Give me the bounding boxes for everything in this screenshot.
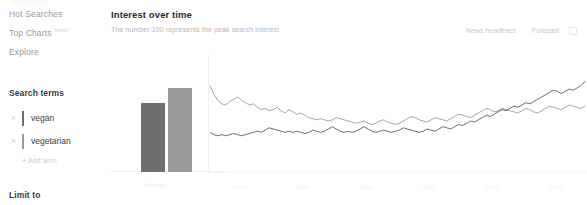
trend-lines-svg: [208, 44, 587, 196]
average-bar-vegetarian: [168, 88, 192, 172]
search-terms-heading: Search terms: [9, 88, 64, 98]
average-bar-vegan: [141, 103, 165, 172]
top-charts-new-badge: New!: [55, 27, 69, 33]
search-term-label: vegan: [31, 113, 54, 123]
trends-interest-over-time-screen: Hot Searches Top ChartsNew! Explore Sear…: [0, 0, 587, 205]
plus-icon: +: [22, 157, 26, 164]
average-axis-label: Average: [123, 182, 187, 188]
sidebar-item-label: Explore: [9, 47, 39, 57]
x-axis-tick-label: 2014: [549, 184, 562, 190]
term-color-swatch: [22, 134, 24, 149]
forecast-checkbox[interactable]: [569, 27, 577, 35]
average-bar-chart: [133, 62, 201, 172]
forecast-toggle[interactable]: Forecast: [532, 27, 559, 34]
add-term-button[interactable]: +Add term: [22, 157, 57, 164]
page-title: Interest over time: [111, 9, 192, 20]
close-icon[interactable]: ✕: [11, 138, 16, 144]
add-term-label: Add term: [28, 157, 56, 164]
sidebar: Hot Searches Top ChartsNew! Explore Sear…: [0, 0, 103, 205]
x-axis-tick-label: 2006: [296, 184, 309, 190]
sidebar-item-label: Top Charts: [9, 28, 52, 38]
x-axis-tick-label: 2012: [486, 184, 499, 190]
line-series-vegetarian: [210, 86, 585, 125]
close-icon[interactable]: ✕: [11, 115, 16, 121]
search-term-label: vegetarian: [31, 136, 71, 146]
x-axis-tick-labels: 200420062008201020122014: [208, 184, 587, 194]
x-axis-tick-label: 2010: [422, 184, 435, 190]
x-axis-tick-label: 2008: [359, 184, 372, 190]
x-axis-tick-label: 2004: [233, 184, 246, 190]
search-term-row[interactable]: ✕ vegetarian: [9, 133, 101, 151]
interest-over-time-chart: Average 200420062008201020122014: [111, 44, 587, 196]
search-term-row[interactable]: ✕ vegan: [9, 110, 101, 128]
line-series-vegan: [210, 81, 585, 136]
main-panel: Interest over time The number 100 repres…: [103, 0, 587, 205]
page-subtitle: The number 100 represents the peak searc…: [111, 26, 279, 33]
term-color-swatch: [22, 111, 24, 126]
sidebar-item-explore[interactable]: Explore: [9, 47, 39, 57]
sidebar-item-hot-searches[interactable]: Hot Searches: [9, 9, 62, 19]
sidebar-item-top-charts[interactable]: Top ChartsNew!: [9, 28, 69, 38]
news-headlines-toggle[interactable]: News headlines: [466, 27, 515, 34]
sidebar-item-label: Hot Searches: [9, 9, 62, 19]
sidebar-top-cutoff-element: [10, 0, 48, 5]
trend-line-plot: [208, 44, 587, 196]
limit-to-heading: Limit to: [9, 190, 41, 200]
